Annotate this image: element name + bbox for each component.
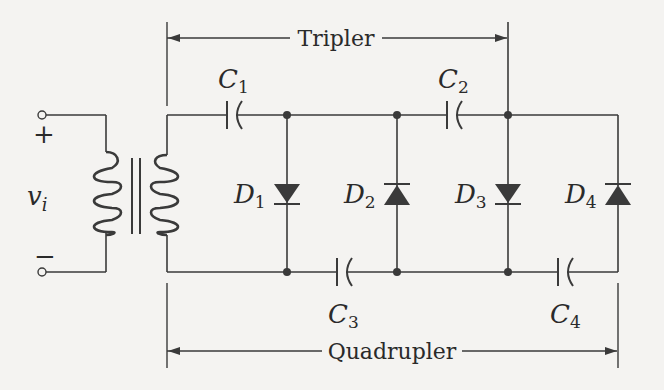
capacitor-c4: C4 [550,258,581,332]
circuit-diagram: + − vi C1 [0,0,664,390]
capacitor-c3: C3 [328,258,359,332]
source-voltage-label: vi [27,181,47,215]
top-rail [167,115,618,186]
diode-d3: D3 [454,22,521,272]
svg-text:D1: D1 [233,179,266,212]
quadrupler-label: Quadrupler [328,339,457,364]
tripler-label: Tripler [298,26,375,51]
secondary-coil [151,155,178,235]
svg-text:C3: C3 [328,299,359,332]
bottom-rail [167,200,618,272]
svg-text:D2: D2 [343,179,376,212]
svg-text:D3: D3 [454,179,487,212]
primary-coil [94,152,121,235]
diode-d1: D1 [233,115,300,272]
diode-d4: D4 [564,179,631,212]
svg-text:C1: C1 [218,64,249,97]
minus-sign: − [34,241,56,271]
svg-text:C4: C4 [550,299,581,332]
capacitor-c2: C2 [438,64,469,129]
input-terminals: + − vi [27,111,106,276]
plus-sign: + [33,119,55,149]
svg-text:D4: D4 [564,179,597,212]
diode-d2: D2 [343,115,410,272]
capacitor-c1: C1 [218,64,249,129]
transformer [94,115,178,272]
terminal-positive [38,111,46,119]
svg-text:C2: C2 [438,64,469,97]
